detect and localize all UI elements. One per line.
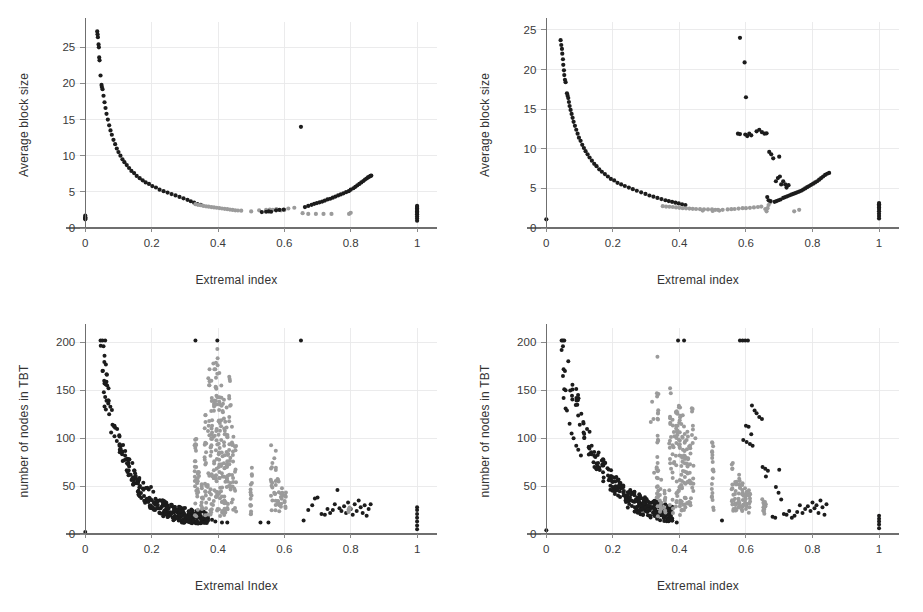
svg-text:0.8: 0.8 — [343, 543, 359, 555]
series-gray-vertical-strips — [193, 347, 352, 518]
series-right-edge-cluster — [415, 505, 419, 531]
four-panel-scatter-figure: 00.20.40.60.810510152025Extremal indexAv… — [0, 0, 923, 612]
series-right-edge-cluster — [877, 201, 881, 221]
svg-text:0.4: 0.4 — [210, 237, 227, 249]
svg-text:Average block size: Average block size — [17, 73, 31, 177]
svg-text:0.6: 0.6 — [738, 543, 754, 555]
series-dark-branch-low — [544, 38, 687, 221]
svg-text:15: 15 — [524, 103, 537, 115]
axes — [527, 18, 899, 228]
svg-text:0.8: 0.8 — [343, 237, 359, 249]
tick-labels: 00.20.40.60.81050100150200 — [56, 336, 420, 555]
panel-bottom-right: 00.20.40.60.81050100150200Extremal index… — [461, 306, 923, 612]
svg-text:5: 5 — [530, 182, 536, 194]
svg-text:0: 0 — [82, 237, 88, 249]
svg-text:20: 20 — [524, 64, 537, 76]
data-points — [544, 338, 881, 532]
svg-text:0: 0 — [543, 237, 549, 249]
series-dark-branch-low — [83, 29, 203, 221]
svg-text:1: 1 — [414, 543, 420, 555]
svg-text:0: 0 — [543, 543, 549, 555]
x-axis-title: Extremal Index — [195, 579, 278, 593]
panel-top-left: 00.20.40.60.810510152025Extremal indexAv… — [0, 0, 461, 306]
series-right-edge-cluster — [415, 204, 419, 223]
svg-text:10: 10 — [62, 150, 75, 162]
svg-text:150: 150 — [517, 384, 536, 396]
svg-text:0.4: 0.4 — [671, 237, 688, 249]
gridlines — [72, 22, 437, 228]
y-axis-title: number of nodes in TBT — [17, 364, 31, 497]
svg-text:1: 1 — [414, 237, 420, 249]
svg-text:0: 0 — [530, 528, 536, 540]
data-points — [544, 36, 881, 222]
x-axis-title: Extremal index — [657, 579, 739, 593]
svg-text:1: 1 — [876, 543, 882, 555]
svg-text:1: 1 — [876, 237, 882, 249]
series-gray-middle — [193, 202, 352, 216]
svg-text:25: 25 — [62, 41, 75, 53]
panel-top-right: 00.20.40.60.810510152025Extremal indexAv… — [461, 0, 923, 306]
svg-text:0.2: 0.2 — [144, 543, 160, 555]
svg-text:0: 0 — [530, 222, 536, 234]
svg-text:0.2: 0.2 — [144, 237, 160, 249]
svg-text:Average block size: Average block size — [478, 73, 492, 177]
panel-bottom-left: 00.20.40.60.81050100150200Extremal Index… — [0, 306, 461, 612]
svg-text:20: 20 — [62, 77, 75, 89]
y-axis-title: Average block size — [17, 73, 31, 177]
data-points — [83, 29, 419, 223]
gridlines — [72, 328, 437, 534]
axes — [66, 324, 437, 534]
y-axis-title: number of nodes in TBT — [478, 364, 492, 497]
chart-bottom-right: 00.20.40.60.81050100150200Extremal index… — [461, 306, 923, 612]
svg-text:0.4: 0.4 — [210, 543, 227, 555]
svg-text:0.6: 0.6 — [276, 237, 292, 249]
svg-text:number of nodes in TBT: number of nodes in TBT — [478, 364, 492, 497]
series-gray-vertical-strips — [649, 355, 768, 518]
tick-labels: 00.20.40.60.81050100150200 — [517, 336, 882, 555]
axes — [66, 18, 437, 228]
series-dark-branch-high — [260, 125, 374, 214]
svg-text:0: 0 — [69, 222, 75, 234]
svg-text:number of nodes in TBT: number of nodes in TBT — [17, 364, 31, 497]
svg-text:100: 100 — [56, 432, 75, 444]
chart-top-left: 00.20.40.60.810510152025Extremal indexAv… — [0, 0, 461, 306]
x-axis-title: Extremal index — [195, 273, 277, 287]
series-right-edge-cluster — [877, 514, 881, 530]
series-dark-spike — [736, 36, 831, 204]
svg-text:0.4: 0.4 — [671, 543, 688, 555]
svg-text:200: 200 — [517, 336, 536, 348]
svg-text:0: 0 — [69, 528, 75, 540]
svg-text:25: 25 — [524, 24, 537, 36]
svg-text:5: 5 — [69, 186, 75, 198]
svg-text:150: 150 — [56, 384, 75, 396]
x-axis-title: Extremal index — [657, 273, 739, 287]
svg-text:50: 50 — [524, 480, 537, 492]
svg-text:100: 100 — [517, 432, 536, 444]
svg-text:10: 10 — [524, 143, 537, 155]
chart-top-right: 00.20.40.60.810510152025Extremal indexAv… — [461, 0, 923, 306]
svg-text:0.2: 0.2 — [605, 543, 621, 555]
chart-bottom-left: 00.20.40.60.81050100150200Extremal Index… — [0, 306, 461, 612]
svg-text:15: 15 — [62, 114, 75, 126]
y-axis-title: Average block size — [478, 73, 492, 177]
svg-text:200: 200 — [56, 336, 75, 348]
svg-text:0.8: 0.8 — [804, 237, 820, 249]
data-points — [83, 338, 419, 534]
svg-text:0.8: 0.8 — [804, 543, 820, 555]
svg-text:0.6: 0.6 — [276, 543, 292, 555]
svg-text:0.2: 0.2 — [605, 237, 621, 249]
gridlines — [533, 22, 899, 228]
svg-text:0: 0 — [82, 543, 88, 555]
axes — [527, 324, 899, 534]
svg-text:0.6: 0.6 — [738, 237, 754, 249]
svg-text:50: 50 — [62, 480, 75, 492]
